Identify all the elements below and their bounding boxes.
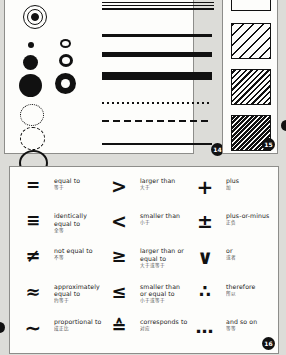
symbol-label-en: proportional to [54, 318, 101, 325]
symbol-label-en: approximately equal to [54, 283, 102, 298]
dashed-rule-icon [102, 120, 212, 122]
symbol-label-en: and so on [226, 318, 257, 325]
medium-solid-dot-icon [23, 55, 38, 70]
less-or-equal-icon: ≤ [102, 281, 136, 301]
page-number-badge-symbols: 16 [262, 337, 275, 350]
plus-minus-icon: ± [188, 210, 222, 231]
greater-or-equal-icon: ≥ [102, 245, 136, 265]
medium-donut-icon [59, 54, 73, 67]
symbol-label-zh: 大于或等于 [140, 263, 188, 269]
thin-rule-icon [102, 143, 212, 145]
symbol-label-en: plus-or-minus [226, 212, 269, 219]
scanned-page: 14 15 = equal to 等于 > larger than [0, 0, 286, 355]
symbol-cell: ∼ proportional to 成正比 [16, 314, 102, 349]
symbol-label-zh: 成正比 [54, 326, 101, 332]
symbol-label-zh: 等于 [54, 185, 80, 191]
symbol-label-zh: 加 [226, 185, 239, 191]
symbol-cell: ≠ not equal to 不等 [16, 243, 102, 278]
symbol-cell: + plus 加 [188, 173, 274, 208]
identical-icon: ≡ [16, 210, 50, 229]
symbol-cell: ≡ identically equal to 全等 [16, 208, 102, 243]
symbol-cell: ≤ smaller than or equal to 小于或等于 [102, 279, 188, 314]
edge-badge-left [0, 322, 5, 333]
symbol-grid: = equal to 等于 > larger than 大于 + plus 加 [16, 173, 274, 349]
less-than-icon: < [102, 210, 136, 231]
dashed-circle-icon [20, 127, 45, 150]
symbol-label-en: smaller than or equal to [140, 283, 188, 298]
symbol-label-en: or [226, 247, 236, 254]
symbol-label-en: plus [226, 177, 239, 184]
plus-icon: + [188, 175, 222, 197]
plate-math-symbols: = equal to 等于 > larger than 大于 + plus 加 [9, 166, 279, 354]
small-solid-dot-icon [28, 42, 34, 48]
symbol-label-en: corresponds to [140, 318, 187, 325]
thick-rule-icon [102, 52, 212, 57]
medium-hatch-square-icon [231, 69, 271, 105]
symbol-label-en: equal to [54, 177, 80, 184]
small-open-circle-icon [60, 39, 71, 48]
plate-lines: 14 [98, 0, 222, 154]
symbol-label-zh: 小于 [140, 220, 180, 226]
symbol-label-en: identically equal to [54, 212, 102, 227]
corresponds-to-icon: ≙ [102, 316, 136, 336]
fine-dotted-rule-icon [102, 102, 212, 104]
plate-hatching: 15 [222, 0, 278, 154]
symbol-label-en: not equal to [54, 247, 93, 254]
dotted-circle-icon [20, 104, 44, 126]
symbol-label-en: larger than [140, 177, 175, 184]
large-solid-dot-icon [19, 74, 42, 97]
symbol-cell: < smaller than 小于 [102, 208, 188, 243]
symbol-cell: = equal to 等于 [16, 173, 102, 208]
symbol-cell: > larger than 大于 [102, 173, 188, 208]
medium-rule-icon [102, 34, 212, 37]
symbol-cell: ∨ or 或者 [188, 243, 274, 278]
large-donut-icon [55, 73, 76, 94]
extra-thick-rule-icon [102, 72, 212, 80]
edge-badge-right [281, 120, 286, 131]
symbol-cell: ∴ therefore 所以 [188, 279, 274, 314]
symbol-label-en: smaller than [140, 212, 180, 219]
not-equal-icon: ≠ [16, 245, 50, 265]
symbol-label-zh: 小于或等于 [140, 298, 188, 304]
approx-equal-icon: ≈ [16, 281, 50, 301]
symbol-cell: ≙ corresponds to 对应 [102, 314, 188, 349]
page-number-badge-hatching: 15 [262, 138, 275, 151]
symbol-label-zh: 不等 [54, 255, 93, 261]
ellipsis-icon: … [188, 316, 222, 336]
symbol-label-zh: 大于 [140, 185, 175, 191]
symbol-label-zh: 所以 [226, 291, 255, 297]
therefore-icon: ∴ [188, 281, 222, 300]
blank-square-icon [231, 0, 271, 11]
hairline-pair-icon [102, 2, 214, 12]
symbol-cell: ≥ larger than or equal to 大于或等于 [102, 243, 188, 278]
symbol-label-zh: 等等 [226, 326, 257, 332]
logical-or-icon: ∨ [188, 245, 222, 267]
symbol-cell: ≈ approximately equal to 约等于 [16, 279, 102, 314]
symbol-cell: ± plus-or-minus 正负 [188, 208, 274, 243]
symbol-label-en: therefore [226, 283, 255, 290]
concentric-target-icon [23, 5, 49, 31]
symbol-label-zh: 对应 [140, 326, 187, 332]
symbol-label-zh: 约等于 [54, 298, 102, 304]
proportional-icon: ∼ [16, 316, 50, 338]
equals-icon: = [16, 175, 50, 194]
greater-than-icon: > [102, 175, 136, 196]
sparse-hatch-square-icon [231, 23, 271, 59]
symbol-label-zh: 正负 [226, 220, 269, 226]
symbol-label-zh: 或者 [226, 255, 236, 261]
symbol-label-zh: 全等 [54, 228, 102, 234]
symbol-label-en: larger than or equal to [140, 247, 188, 262]
